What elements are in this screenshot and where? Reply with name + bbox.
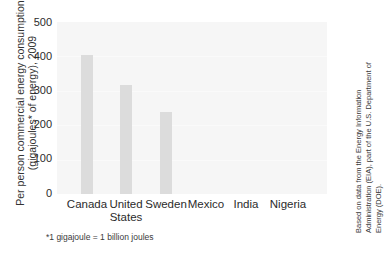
gridline-200	[57, 125, 327, 126]
y-axis-tick-labels: 500 400 300 200 100 0	[0, 22, 52, 194]
plot-area	[57, 22, 327, 194]
gridline-100	[57, 160, 327, 161]
y-tick-label-0: 0	[2, 188, 52, 199]
bar-canada[interactable]	[81, 55, 93, 194]
x-tick-united-states-line-2: States	[94, 211, 158, 224]
x-tick-label-nigeria: Nigeria	[256, 198, 320, 211]
gridline-300	[57, 91, 327, 92]
y-tick-label-500: 500	[2, 17, 52, 28]
source-note-line-3: Energy (DOE).	[374, 184, 384, 233]
bar-sweden[interactable]	[160, 112, 172, 194]
y-tick-label-400: 400	[2, 51, 52, 62]
y-tick-label-200: 200	[2, 119, 52, 130]
x-tick-nigeria-line-1: Nigeria	[270, 198, 306, 210]
source-note-line-2: Administration (EIA), part of the U.S. D…	[364, 62, 374, 233]
bar-united-states[interactable]	[120, 85, 132, 194]
source-note-line-1: Based on data from the Energy Informatio…	[354, 90, 364, 233]
y-tick-label-100: 100	[2, 153, 52, 164]
footnote: *1 gigajoule = 1 billion joules	[46, 232, 154, 242]
x-tick-india-line-1: India	[234, 198, 259, 210]
x-axis-tick-labels: Canada United States Sweden Mexico India…	[57, 198, 327, 228]
source-note: Based on data from the Energy Informatio…	[351, 11, 387, 233]
gridline-400	[57, 56, 327, 57]
y-tick-label-300: 300	[2, 85, 52, 96]
